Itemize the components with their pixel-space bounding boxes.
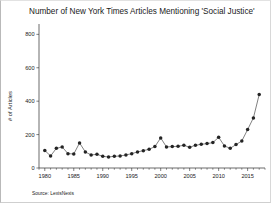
data-point <box>182 144 186 148</box>
y-tick-label: 800 <box>25 31 34 37</box>
data-point <box>171 145 175 149</box>
data-point <box>66 152 70 156</box>
data-point <box>130 152 134 156</box>
y-axis-ticks: 0200400600800 <box>25 31 39 171</box>
y-tick-label: 600 <box>25 65 34 71</box>
data-point <box>89 153 93 157</box>
x-tick-label: 1990 <box>97 173 109 179</box>
data-point <box>194 144 198 148</box>
x-tick-label: 2005 <box>183 173 195 179</box>
data-point <box>252 116 256 120</box>
y-axis-title: # of Articles <box>7 91 13 121</box>
x-axis-ticks: 19801985199019952000200520102015 <box>39 168 254 179</box>
data-point <box>217 136 221 140</box>
data-point <box>113 155 117 159</box>
data-point <box>147 148 151 152</box>
x-tick-label: 2010 <box>212 173 224 179</box>
data-point <box>136 150 140 154</box>
x-tick-label: 1980 <box>39 173 51 179</box>
series-line-articles <box>45 94 259 156</box>
x-tick-label: 1985 <box>68 173 80 179</box>
data-point <box>72 152 76 156</box>
y-tick-label: 400 <box>25 98 34 104</box>
x-tick-label: 1995 <box>125 173 137 179</box>
data-point <box>55 147 59 151</box>
data-point <box>165 145 169 149</box>
line-chart: Number of New York Times Articles Mentio… <box>1 1 271 203</box>
data-point <box>142 149 146 153</box>
x-tick-label: 2000 <box>154 173 166 179</box>
data-point <box>205 142 209 146</box>
data-point <box>84 150 88 154</box>
data-point <box>43 149 47 153</box>
data-point <box>124 153 128 157</box>
data-point <box>234 143 238 147</box>
data-point <box>211 141 215 145</box>
data-point <box>223 144 227 148</box>
source-note: Source: LexisNexis <box>32 191 74 196</box>
data-point <box>188 146 192 150</box>
data-point <box>49 154 53 158</box>
data-point <box>246 128 250 132</box>
data-point <box>228 147 232 151</box>
chart-title: Number of New York Times Articles Mentio… <box>29 7 255 16</box>
data-point <box>153 145 157 149</box>
y-tick-label: 200 <box>25 132 34 138</box>
data-point <box>200 143 204 147</box>
data-point <box>95 153 99 157</box>
data-point <box>107 155 111 159</box>
x-tick-label: 2015 <box>241 173 253 179</box>
chart-figure: Number of New York Times Articles Mentio… <box>0 0 271 203</box>
series-markers-articles <box>43 93 261 159</box>
y-tick-label: 0 <box>31 165 34 171</box>
data-point <box>159 136 163 140</box>
data-point <box>240 139 244 143</box>
data-point <box>60 145 64 149</box>
data-point <box>78 141 82 145</box>
data-point <box>118 154 122 158</box>
data-point <box>101 155 105 159</box>
data-point <box>176 145 180 149</box>
data-point <box>257 93 261 97</box>
